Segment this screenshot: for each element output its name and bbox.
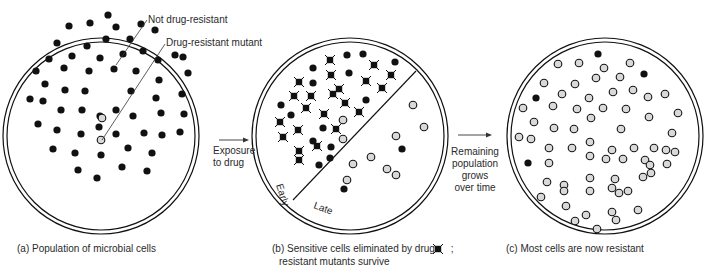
resistant-cell — [349, 160, 357, 168]
sensitive-cell — [132, 67, 139, 74]
sensitive-cell — [65, 22, 72, 29]
resistant-cell — [663, 160, 671, 168]
sensitive-cell — [309, 79, 316, 86]
resistant-cell — [624, 187, 632, 195]
resistant-cell — [339, 135, 347, 143]
arrow-growth — [458, 133, 492, 138]
sensitive-cell — [326, 154, 333, 161]
arrow-label-exposure-line2: to drug — [213, 157, 255, 169]
resistant-cell — [617, 125, 625, 133]
resistant-cell — [519, 104, 527, 112]
drug-killed-cell — [278, 132, 288, 142]
sensitive-cell — [178, 90, 185, 97]
resistant-cell — [339, 116, 347, 124]
resistant-cell — [537, 193, 545, 201]
resistant-cell — [616, 73, 624, 81]
resistant-cell — [515, 133, 523, 141]
sensitive-cell — [148, 149, 155, 156]
sensitive-cell — [104, 11, 111, 18]
resistant-cell — [611, 175, 619, 183]
sensitive-cell — [176, 128, 183, 135]
sensitive-cell — [53, 39, 60, 46]
resistant-cell — [644, 93, 652, 101]
label-drug-resistant-mutant: Drug-resistant mutant — [166, 37, 262, 49]
caption-b-line1: (b) Sensitive cells eliminated by drug; — [272, 243, 454, 255]
caption-b-text: (b) Sensitive cells eliminated by drug — [272, 243, 435, 254]
sensitive-cell — [129, 112, 136, 119]
resistant-cell — [645, 113, 653, 121]
sensitive-cell — [137, 20, 144, 27]
sensitive-cell — [277, 101, 284, 108]
sensitive-cell — [359, 50, 366, 57]
arrow-label-exposure: Exposure to drug — [213, 145, 255, 169]
resistant-cell — [602, 155, 610, 163]
resistant-cell — [608, 184, 616, 192]
resistant-cell — [600, 64, 608, 72]
sensitive-cell — [97, 151, 104, 158]
sensitive-cell — [34, 120, 41, 127]
resistant-cell — [612, 216, 620, 224]
resistant-cell — [586, 187, 594, 195]
sensitive-cell — [78, 106, 85, 113]
sensitive-cell — [171, 51, 178, 58]
caption-b-line2: resistant mutants survive — [279, 256, 390, 268]
sensitive-cell — [118, 163, 125, 170]
resistant-cell — [674, 109, 682, 117]
sensitive-cell — [287, 111, 294, 118]
drug-killed-cell — [275, 117, 285, 127]
resistant-cell — [593, 225, 601, 233]
sensitive-cell — [32, 67, 39, 74]
resistant-cell — [586, 174, 594, 182]
resistant-cell — [560, 187, 568, 195]
sensitive-cell — [152, 94, 159, 101]
drug-killed-cell — [369, 60, 379, 70]
resistant-cell — [599, 104, 607, 112]
sensitive-cell — [112, 106, 119, 113]
resistant-cell — [587, 114, 595, 122]
resistant-cell — [554, 60, 562, 68]
resistant-cell — [392, 132, 400, 140]
caption-a: (a) Population of microbial cells — [17, 243, 156, 255]
resistant-cell — [343, 176, 351, 184]
resistant-cell — [622, 105, 630, 113]
resistant-cell — [575, 59, 583, 67]
leader-line-resistant-mutant — [102, 44, 165, 140]
resistant-cell — [543, 178, 551, 186]
sensitive-cell — [127, 87, 134, 94]
sensitive-cell — [143, 167, 150, 174]
sensitive-cell — [309, 137, 316, 144]
sensitive-cell — [39, 97, 46, 104]
sensitive-cell — [139, 47, 146, 54]
resistant-cell — [671, 148, 679, 156]
resistant-cell — [608, 208, 616, 216]
sensitive-cell — [155, 76, 162, 83]
sensitive-cell — [57, 106, 64, 113]
resistant-cell — [562, 202, 570, 210]
sensitive-cell — [532, 94, 539, 101]
sensitive-cell — [391, 58, 398, 65]
resistant-cell — [639, 173, 647, 181]
resistant-cell — [571, 80, 579, 88]
resistant-cell — [383, 165, 391, 173]
sensitive-cell — [154, 56, 161, 63]
drug-killed-cell — [325, 55, 335, 65]
resistant-cell — [626, 59, 634, 67]
sensitive-cell — [41, 80, 48, 87]
drug-killed-cell — [386, 70, 396, 80]
sensitive-cell — [124, 144, 131, 151]
resistant-cell — [592, 74, 600, 82]
resistant-cell — [582, 211, 590, 219]
resistant-cell — [634, 206, 642, 214]
sensitive-cell — [93, 174, 100, 181]
sensitive-cell — [86, 19, 93, 26]
sensitive-cell — [343, 51, 350, 58]
resistant-cell — [668, 129, 676, 137]
petri-dish-c — [507, 38, 703, 234]
caption-b-semicolon: ; — [451, 243, 454, 254]
sensitive-cell — [112, 23, 119, 30]
resistant-cell — [545, 144, 553, 152]
resistant-cell — [609, 88, 617, 96]
drug-killed-cell — [293, 125, 303, 135]
drug-killed-cell — [331, 124, 341, 134]
resistant-cell — [545, 159, 553, 167]
